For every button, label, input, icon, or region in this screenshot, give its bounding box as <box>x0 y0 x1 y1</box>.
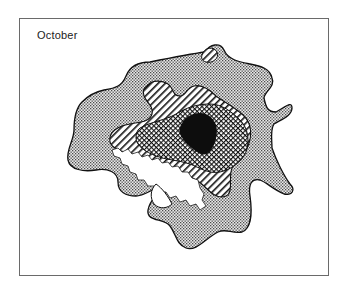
contour-map <box>0 0 349 295</box>
small-hatch-blob <box>202 48 218 62</box>
